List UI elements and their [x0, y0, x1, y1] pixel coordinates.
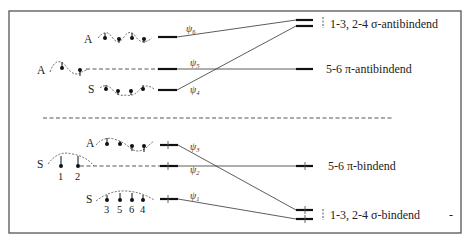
symmetry-label-psi1: S	[86, 193, 92, 205]
atom-number-4: 4	[140, 204, 146, 215]
symmetry-label-psi5: A	[37, 64, 46, 76]
label-psi6: ψ6	[186, 23, 196, 35]
label-pi-antibonding: 5-6 π-antibindend	[326, 62, 412, 76]
atom-number-3: 3	[104, 204, 109, 215]
symmetry-label-psi4: S	[88, 83, 94, 95]
orbital-sketch-psi6	[98, 33, 152, 44]
stray-mark: -	[449, 208, 453, 222]
atom-number-5: 5	[117, 204, 122, 215]
correlation-line-psi1	[178, 199, 296, 219]
label-psi3: ψ3	[190, 141, 200, 153]
symmetry-label-psi2: S	[37, 158, 43, 170]
label-psi1: ψ1	[190, 190, 199, 202]
label-psi4: ψ4	[190, 84, 200, 96]
label-sigma-bonding: 1-3, 2-4 σ-bindend	[330, 208, 420, 222]
orbital-sketch-psi3	[96, 138, 154, 152]
symmetry-label-psi6: A	[84, 33, 93, 45]
orbital-sketch-psi5	[50, 62, 88, 76]
diagram-frame	[9, 11, 461, 233]
atom-number-1: 1	[58, 171, 63, 182]
label-pi-bonding: 5-6 π-bindend	[328, 159, 396, 173]
orbital-sketch-psi2: 1 2	[48, 153, 94, 182]
atom-number-2: 2	[75, 171, 80, 182]
atom-number-6: 6	[129, 204, 134, 215]
orbital-correlation-diagram: A ψ6 A ψ5 S ψ4 1-3, 2-4 σ-antibindend 5-…	[0, 0, 476, 241]
orbital-sketch-psi4	[100, 85, 154, 95]
label-sigma-antibonding: 1-3, 2-4 σ-antibindend	[330, 17, 438, 31]
label-psi5: ψ5	[190, 57, 200, 69]
symmetry-label-psi3: A	[86, 137, 95, 149]
orbital-sketch-psi1: 3 5 6 4	[96, 191, 154, 215]
